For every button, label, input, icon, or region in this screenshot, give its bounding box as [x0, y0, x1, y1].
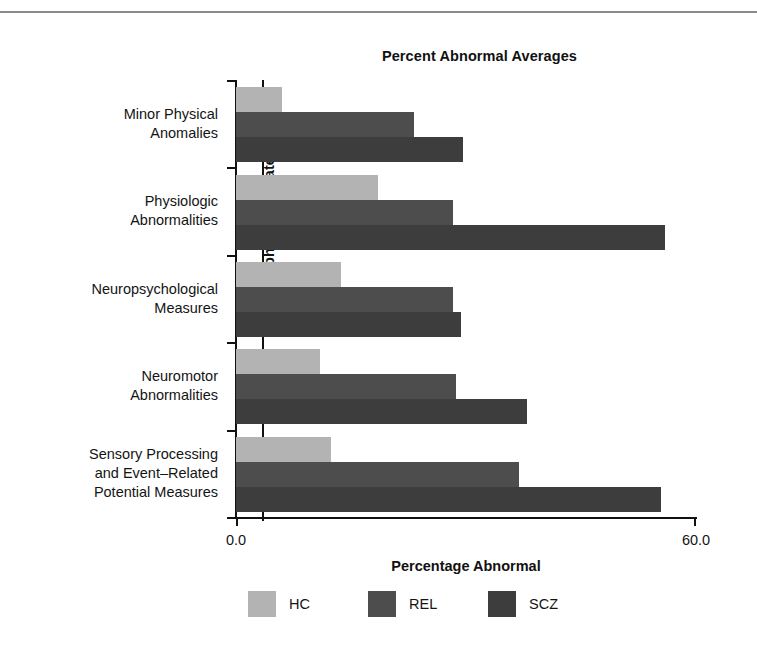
category-label-line: Neuromotor: [18, 367, 218, 386]
category-label-line: Anomalies: [18, 124, 218, 143]
x-tick-label-min: 0.0: [201, 532, 271, 548]
bar-rel-group-2: [236, 200, 453, 225]
chart-title-text: Percent Abnormal Averages: [382, 48, 577, 64]
legend-item-rel[interactable]: REL: [368, 590, 437, 618]
bar-rel-group-1: [236, 112, 414, 137]
bar-scz-group-2: [236, 225, 665, 250]
category-label-line: Abnormalities: [18, 211, 218, 230]
category-label-line: Abnormalities: [18, 386, 218, 405]
x-tick-label-max: 60.0: [661, 532, 731, 548]
plot-area: Endophenotype Category Minor PhysicalAno…: [236, 80, 696, 517]
bar-hc-group-3: [236, 262, 341, 287]
category-label-1: Minor PhysicalAnomalies: [18, 105, 218, 143]
bar-scz-group-3: [236, 312, 461, 337]
bar-hc-group-4: [236, 349, 320, 374]
legend-swatch-rel: [368, 591, 396, 617]
category-label-line: Neuropsychological: [18, 280, 218, 299]
bar-scz-group-1: [236, 137, 463, 162]
y-axis-tick: [227, 342, 236, 344]
category-label-line: Minor Physical: [18, 105, 218, 124]
legend-swatch-scz: [488, 591, 516, 617]
bar-scz-group-5: [236, 487, 661, 512]
legend-item-scz[interactable]: SCZ: [488, 590, 558, 618]
legend-swatch-hc: [248, 591, 276, 617]
chart-legend: HCRELSCZ: [236, 590, 696, 620]
bar-rel-group-3: [236, 287, 453, 312]
category-label-line: Sensory Processing: [18, 445, 218, 464]
legend-label-rel: REL: [409, 596, 437, 612]
y-axis-tick: [227, 255, 236, 257]
bar-rel-group-5: [236, 462, 519, 487]
category-label-5: Sensory Processingand Event–RelatedPoten…: [18, 445, 218, 502]
category-label-line: Physiologic: [18, 192, 218, 211]
legend-item-hc[interactable]: HC: [248, 590, 310, 618]
bar-hc-group-5: [236, 437, 331, 462]
bar-hc-group-1: [236, 87, 282, 112]
chart-title: Percent Abnormal Averages: [0, 48, 757, 64]
y-axis-tick: [227, 167, 236, 169]
x-axis-title: Percentage Abnormal: [236, 558, 696, 574]
category-label-line: and Event–Related: [18, 464, 218, 483]
x-axis-tick: [694, 517, 696, 526]
y-axis-tick-end: [227, 80, 236, 82]
bar-hc-group-2: [236, 175, 378, 200]
y-axis-tick-end: [227, 517, 236, 519]
legend-label-scz: SCZ: [529, 596, 558, 612]
chart-figure: Percent Abnormal Averages Endophenotype …: [0, 0, 757, 653]
category-label-line: Measures: [18, 299, 218, 318]
legend-label-hc: HC: [289, 596, 310, 612]
bar-rel-group-4: [236, 374, 456, 399]
x-axis-tick: [236, 517, 238, 526]
category-label-2: PhysiologicAbnormalities: [18, 192, 218, 230]
category-label-4: NeuromotorAbnormalities: [18, 367, 218, 405]
category-label-3: NeuropsychologicalMeasures: [18, 280, 218, 318]
bar-scz-group-4: [236, 399, 527, 424]
y-axis-tick: [227, 430, 236, 432]
x-axis-line: [236, 517, 697, 519]
category-label-line: Potential Measures: [18, 483, 218, 502]
